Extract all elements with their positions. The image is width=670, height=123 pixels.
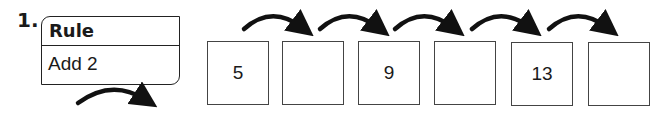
curved-arrow-icon — [244, 16, 303, 29]
sequence-box: 9 — [358, 41, 420, 105]
sequence-box-blank[interactable] — [282, 41, 344, 105]
curved-arrow-icon — [472, 16, 531, 29]
curved-arrow-icon — [395, 16, 454, 29]
curved-arrow-icon — [549, 16, 608, 29]
curved-arrow-icon — [320, 16, 379, 29]
sequence-box: 13 — [511, 42, 573, 106]
curved-arrow-icon — [78, 90, 146, 103]
sequence-box-blank[interactable] — [588, 42, 650, 106]
sequence-box: 5 — [207, 41, 269, 105]
sequence-box-blank[interactable] — [434, 41, 496, 105]
